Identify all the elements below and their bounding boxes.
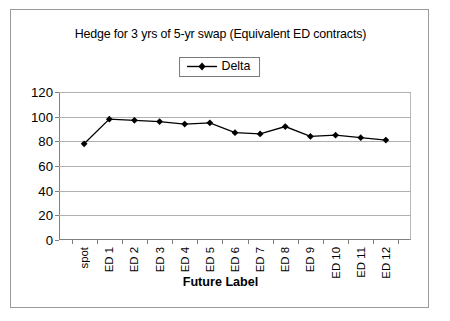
- x-axis-tick-label: ED 1: [103, 247, 115, 272]
- chart-title: Hedge for 3 yrs of 5-yr swap (Equivalent…: [11, 27, 430, 41]
- x-axis-tick-mark: [248, 240, 249, 244]
- chart-legend: Delta: [179, 57, 261, 77]
- legend-entry-delta: Delta: [222, 60, 251, 73]
- x-axis-tick-mark: [97, 240, 98, 244]
- x-axis-tick-mark: [122, 240, 123, 244]
- chart-container: Hedge for 3 yrs of 5-yr swap (Equivalent…: [10, 9, 429, 308]
- y-axis-tick-label: 100: [31, 109, 53, 124]
- x-axis-tick-label: ED 11: [355, 247, 367, 278]
- data-point-marker: [282, 123, 289, 130]
- data-point-marker: [206, 119, 213, 126]
- data-point-marker: [307, 133, 314, 140]
- data-point-marker: [257, 131, 264, 138]
- plot-wrapper: 020406080100120 spotED 1ED 2ED 3ED 4ED 5…: [59, 92, 411, 240]
- data-point-marker: [382, 137, 389, 144]
- x-axis-tick-mark: [373, 240, 374, 244]
- x-axis-tick-label: ED 7: [254, 247, 266, 272]
- x-axis-tick-label: ED 4: [179, 247, 191, 272]
- y-axis-tick-mark: [55, 240, 59, 241]
- legend-line-marker-icon: [187, 61, 217, 72]
- x-axis-tick-label: spot: [78, 247, 90, 269]
- data-series-delta: [59, 92, 411, 240]
- y-axis-tick-label: 40: [38, 183, 53, 198]
- x-axis-tick-label: ED 5: [204, 247, 216, 272]
- x-axis-tick-mark: [348, 240, 349, 244]
- x-axis-tick-label: ED 2: [128, 247, 140, 272]
- y-axis-tick-label: 120: [31, 85, 53, 100]
- x-axis-tick-mark: [222, 240, 223, 244]
- x-axis-tick-mark: [72, 240, 73, 244]
- data-point-marker: [357, 134, 364, 141]
- x-axis-tick-label: ED 9: [304, 247, 316, 272]
- data-point-marker: [156, 118, 163, 125]
- x-axis-tick-mark: [147, 240, 148, 244]
- data-point-marker: [131, 117, 138, 124]
- y-axis-tick-label: 80: [38, 134, 53, 149]
- x-axis-tick-mark: [197, 240, 198, 244]
- y-axis-tick-label: 0: [46, 233, 53, 248]
- x-axis-title: Future Label: [11, 275, 430, 289]
- x-axis-tick-mark: [323, 240, 324, 244]
- x-axis-tick-mark: [398, 240, 399, 244]
- x-axis-tick-mark: [273, 240, 274, 244]
- x-axis-tick-label: ED 6: [229, 247, 241, 272]
- data-point-marker: [181, 121, 188, 128]
- y-axis-tick-label: 20: [38, 208, 53, 223]
- x-axis-tick-label: ED 10: [330, 247, 342, 279]
- x-axis-tick-mark: [172, 240, 173, 244]
- x-axis-tick-mark: [298, 240, 299, 244]
- x-axis-tick-label: ED 8: [279, 247, 291, 272]
- data-point-marker: [232, 129, 239, 136]
- data-point-marker: [332, 132, 339, 139]
- y-axis-tick-label: 60: [38, 159, 53, 174]
- x-axis-tick-label: ED 12: [380, 247, 392, 279]
- x-axis-tick-label: ED 3: [154, 247, 166, 272]
